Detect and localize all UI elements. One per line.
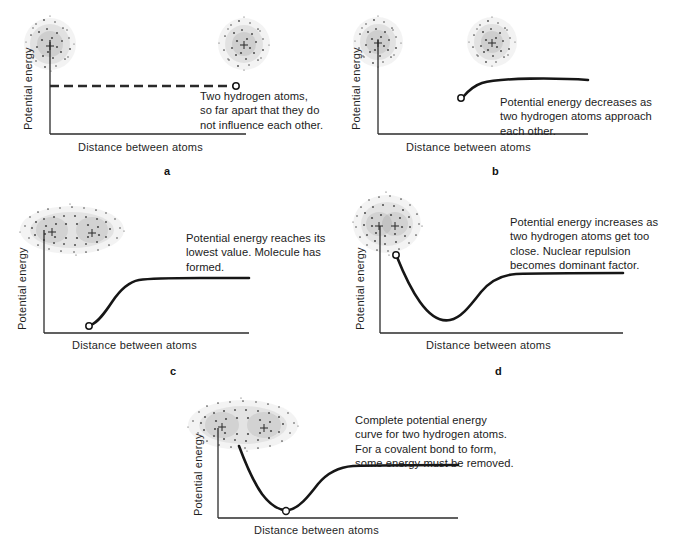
electron-cloud-atom-right: [218, 16, 270, 70]
panel-c-x-axis-label: Distance between atoms: [72, 339, 197, 351]
panel-b-y-axis-label: Potential energy: [350, 47, 362, 130]
merged-molecule-cloud: [19, 203, 124, 255]
panel-c-y-axis-label: Potential energy: [16, 247, 28, 330]
electron-cloud-atom-right: [467, 16, 517, 67]
panel-d: Potential energy Distance between atoms …: [340, 190, 681, 390]
panel-e: Potential energy Distance between atoms …: [170, 390, 590, 560]
panel-b-letter: b: [492, 165, 499, 177]
panel-a: Potential energy Distance between atoms …: [0, 0, 340, 190]
overlapping-atoms-cloud: [352, 191, 422, 255]
curve-startpoint-marker: [393, 252, 399, 258]
panel-b-x-axis-label: Distance between atoms: [406, 141, 531, 153]
panel-e-y-axis-label: Potential energy: [192, 433, 204, 516]
merged-molecule-cloud: [187, 397, 298, 451]
curve-endpoint-marker: [458, 95, 464, 101]
panel-d-x-axis-label: Distance between atoms: [426, 339, 551, 351]
panel-a-letter: a: [164, 165, 170, 177]
panel-d-y-axis-label: Potential energy: [354, 247, 366, 330]
panel-d-letter: d: [495, 365, 502, 377]
panel-e-caption: Complete potential energy curve for two …: [355, 413, 555, 471]
panel-d-caption: Potential energy increases as two hydrog…: [510, 215, 681, 273]
panel-c: Potential energy Distance between atoms …: [0, 190, 340, 390]
panel-a-y-axis-label: Potential energy: [22, 47, 34, 130]
panel-b-caption: Potential energy decreases as two hydrog…: [500, 95, 680, 138]
curve-startpoint-marker: [86, 323, 92, 329]
panel-a-x-axis-label: Distance between atoms: [78, 141, 203, 153]
panel-c-caption: Potential energy reaches its lowest valu…: [186, 231, 336, 274]
curve-minimum-marker: [283, 508, 290, 515]
panel-b: Potential energy Distance between atoms …: [340, 0, 681, 190]
panel-a-caption: Two hydrogen atoms, so far apart that th…: [200, 89, 340, 132]
panel-c-letter: c: [170, 365, 176, 377]
potential-energy-curve: [91, 278, 249, 325]
panel-e-x-axis-label: Distance between atoms: [254, 524, 379, 536]
